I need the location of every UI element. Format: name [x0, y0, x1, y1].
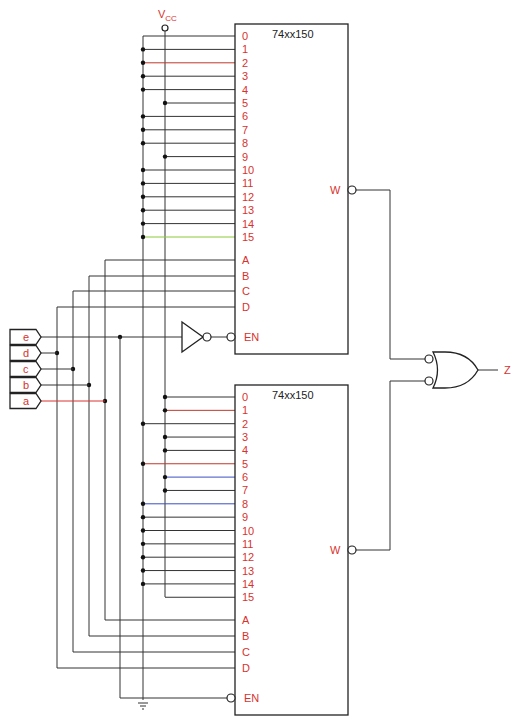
data-pin-label: 12 — [242, 551, 254, 563]
output-bubble-icon — [348, 546, 356, 554]
junction-dot — [141, 582, 145, 586]
data-pin-label: 7 — [242, 124, 248, 136]
junction-dot — [141, 528, 145, 532]
output-label: Z — [504, 364, 511, 376]
junction-dot — [141, 114, 145, 118]
data-pin-label: 6 — [242, 471, 248, 483]
input-label: d — [23, 347, 29, 359]
data-pin-label: 10 — [242, 525, 254, 537]
input-label: e — [23, 331, 29, 343]
junction-dot — [141, 555, 145, 559]
junction-dot — [141, 87, 145, 91]
data-pin-label: 4 — [242, 444, 248, 456]
junction-dot — [141, 502, 145, 506]
input-label: b — [23, 379, 29, 391]
vcc-terminal-icon — [162, 25, 168, 31]
inverter-bubble-icon — [203, 333, 211, 341]
junction-dot — [163, 101, 167, 105]
or-input-bubble-icon — [425, 355, 433, 363]
data-pin-label: 15 — [242, 231, 254, 243]
enable-bubble-icon — [227, 333, 235, 341]
data-pin-label: 9 — [242, 151, 248, 163]
junction-dot — [163, 395, 167, 399]
or-gate-icon — [433, 352, 478, 388]
data-pin-label: 11 — [242, 538, 253, 550]
output-pin-label: W — [330, 544, 341, 556]
data-pin-label: 0 — [242, 30, 248, 42]
junction-dot — [141, 181, 145, 185]
data-pin-label: 15 — [242, 591, 254, 603]
input-label: c — [23, 363, 29, 375]
junction-dot — [163, 408, 167, 412]
data-pin-label: 11 — [242, 177, 253, 189]
data-pin-label: 4 — [242, 84, 248, 96]
or-input-bubble-icon — [425, 377, 433, 385]
data-pin-label: 0 — [242, 391, 248, 403]
junction-dot — [141, 422, 145, 426]
junction-dot — [163, 154, 167, 158]
data-pin-label: 7 — [242, 484, 248, 496]
select-pin-label: A — [242, 614, 250, 626]
select-pin-label: B — [242, 630, 249, 642]
input-label: a — [23, 395, 30, 407]
junction-dot — [163, 475, 167, 479]
data-pin-label: 9 — [242, 511, 248, 523]
junction-dot — [163, 448, 167, 452]
junction-dot — [141, 568, 145, 572]
junction-dot — [141, 141, 145, 145]
junction-dot — [141, 235, 145, 239]
data-pin-label: 1 — [242, 43, 248, 55]
junction-dot — [141, 74, 145, 78]
output-bubble-icon — [348, 186, 356, 194]
junction-dot — [141, 221, 145, 225]
select-pin-label: D — [242, 301, 250, 313]
data-pin-label: 6 — [242, 110, 248, 122]
data-pin-label: 8 — [242, 137, 248, 149]
chip-part-label: 74xx150 — [272, 28, 314, 40]
enable-pin-label: EN — [244, 331, 259, 343]
junction-dot — [141, 61, 145, 65]
select-pin-label: C — [242, 285, 250, 297]
select-pin-label: D — [242, 662, 250, 674]
select-pin-label: B — [242, 270, 249, 282]
select-pin-label: C — [242, 646, 250, 658]
upper-output-wire — [352, 190, 425, 359]
junction-dot — [141, 128, 145, 132]
lower-output-wire — [352, 381, 425, 550]
junction-dot — [141, 168, 145, 172]
chip-part-label: 74xx150 — [272, 389, 314, 401]
junction-dot — [163, 435, 167, 439]
junction-dot — [141, 208, 145, 212]
mux-circuit-diagram: VCC74xx1500123456789101112131415ABCDENW7… — [0, 0, 524, 722]
data-pin-label: 14 — [242, 218, 254, 230]
output-pin-label: W — [330, 184, 341, 196]
junction-dot — [141, 515, 145, 519]
data-pin-label: 14 — [242, 578, 254, 590]
data-pin-label: 8 — [242, 498, 248, 510]
data-pin-label: 1 — [242, 404, 248, 416]
junction-dot — [141, 462, 145, 466]
data-pin-label: 2 — [242, 418, 248, 430]
data-pin-label: 5 — [242, 458, 248, 470]
data-pin-label: 10 — [242, 164, 254, 176]
junction-dot — [141, 542, 145, 546]
select-pin-label: A — [242, 254, 250, 266]
inverter-gate-icon — [182, 322, 203, 352]
junction-dot — [163, 488, 167, 492]
vcc-subscript: CC — [165, 14, 177, 23]
data-pin-label: 3 — [242, 431, 248, 443]
data-pin-label: 3 — [242, 70, 248, 82]
enable-pin-label: EN — [244, 692, 259, 704]
enable-bubble-icon — [227, 694, 235, 702]
data-pin-label: 13 — [242, 565, 254, 577]
data-pin-label: 2 — [242, 57, 248, 69]
data-pin-label: 12 — [242, 191, 254, 203]
data-pin-label: 5 — [242, 97, 248, 109]
vcc-label: VCC — [158, 8, 177, 23]
data-pin-label: 13 — [242, 204, 254, 216]
junction-dot — [141, 195, 145, 199]
junction-dot — [141, 47, 145, 51]
